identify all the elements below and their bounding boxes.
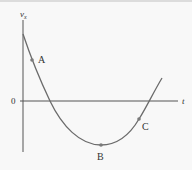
y-axis-label: vx bbox=[20, 9, 27, 20]
point-a-label: A bbox=[38, 54, 46, 65]
point-a-marker bbox=[30, 58, 34, 62]
point-c-label: C bbox=[142, 121, 149, 132]
velocity-time-graph: vx 0 t A B C bbox=[0, 0, 192, 170]
x-axis-label: t bbox=[182, 96, 185, 106]
zero-label: 0 bbox=[11, 96, 16, 106]
point-c-marker bbox=[137, 117, 141, 121]
point-b-marker bbox=[99, 143, 103, 147]
point-b-label: B bbox=[97, 151, 104, 162]
